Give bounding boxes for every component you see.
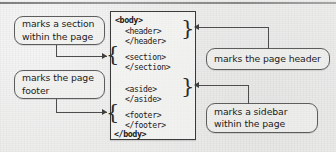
code-line-footer: <footer> </footer> xyxy=(125,111,166,130)
connector-footer-vertical xyxy=(56,99,57,113)
callout-sidebar: marks a sidebar within the page xyxy=(206,103,318,133)
callout-section: marks a section within the page xyxy=(14,16,105,45)
callout-header-label: marks the page header xyxy=(214,53,322,65)
code-line-header: <header> </header> xyxy=(125,27,166,46)
code-line-section: <section> </section> xyxy=(125,53,170,72)
connector-header-horizontal xyxy=(199,27,269,28)
connector-footer-horizontal xyxy=(56,112,107,113)
arrowhead-sidebar-icon xyxy=(194,82,199,88)
arrowhead-section-icon xyxy=(102,53,107,59)
connector-section-horizontal xyxy=(56,56,107,57)
brace-section-icon: { xyxy=(106,44,119,65)
brace-header-icon: } xyxy=(181,18,194,39)
connector-sidebar-horizontal xyxy=(199,85,249,86)
arrowhead-header-icon xyxy=(194,24,199,30)
connector-sidebar-vertical xyxy=(248,85,249,104)
callout-footer-label: marks the page footer xyxy=(22,72,97,96)
callout-section-label: marks a section within the page xyxy=(22,18,97,42)
arrowhead-footer-icon xyxy=(102,109,107,115)
code-line-body-close: </body> xyxy=(114,130,146,140)
callout-footer: marks the page footer xyxy=(14,70,105,99)
top-rule-divider xyxy=(0,2,336,4)
code-line-aside: <aside> </aside> xyxy=(125,85,161,104)
code-line-body-open: <body> xyxy=(115,16,143,26)
callout-sidebar-label: marks a sidebar within the page xyxy=(214,106,310,130)
brace-aside-icon: } xyxy=(181,76,194,97)
connector-header-vertical xyxy=(268,27,269,49)
callout-header: marks the page header xyxy=(206,48,330,70)
brace-footer-icon: { xyxy=(106,102,119,123)
